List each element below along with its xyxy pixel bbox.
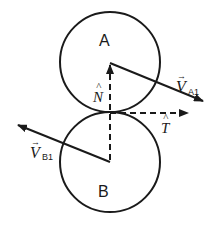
label-a: A xyxy=(99,32,110,49)
vb1-subscript: B1 xyxy=(42,152,53,162)
vb1-arrow-accent: → xyxy=(31,137,40,147)
velocity-b1: V B1 → xyxy=(18,125,110,162)
va1-subscript: A1 xyxy=(188,87,199,97)
velocity-a1: V A1 → xyxy=(110,63,203,101)
label-b: B xyxy=(98,183,109,200)
va1-arrow-accent: → xyxy=(177,71,186,81)
collision-diagram: A B N ^ T ^ V A1 → V B1 → xyxy=(0,0,214,231)
